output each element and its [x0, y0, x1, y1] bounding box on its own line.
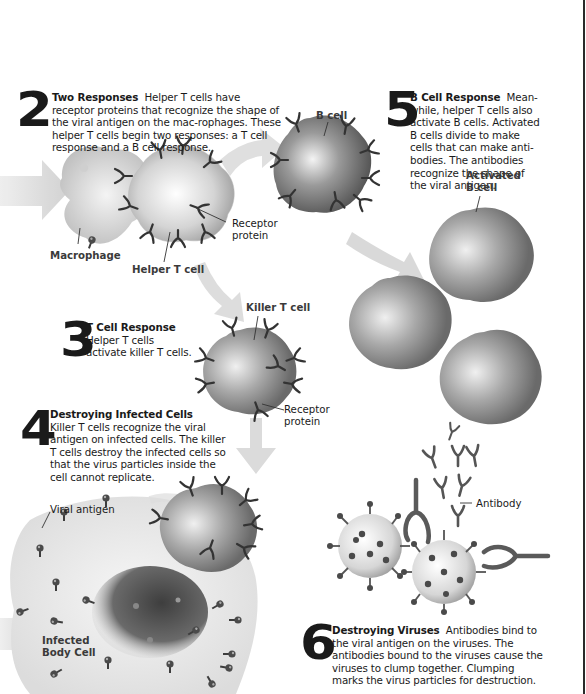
step-text: Killer T cells recognize the viral antig… [50, 421, 230, 484]
label-viral-antigen: Viral antigen [50, 504, 115, 516]
free-antibodies [423, 423, 482, 526]
b-cell [271, 113, 379, 213]
step-title: T Cell Response [86, 321, 196, 334]
label-b-cell: B cell [316, 110, 347, 122]
step-title: B Cell Response [410, 91, 500, 103]
label-activated-b-cell: Activated B cell [466, 170, 526, 194]
label-killer-t-cell: Killer T cell [246, 302, 310, 314]
step-text: Helper T cells activate killer T cells. [86, 334, 196, 359]
step-title: Destroying Infected Cells [50, 408, 230, 421]
plasma-cell-left [349, 275, 452, 369]
label-macrophage: Macrophage [50, 250, 121, 262]
step-title: Two Responses [52, 91, 138, 103]
label-receptor-protein-2: Receptor protein [284, 404, 344, 428]
label-helper-t-cell: Helper T cell [132, 264, 204, 276]
virus-left [327, 501, 410, 591]
plasma-cell-right [440, 330, 542, 425]
virus-right [401, 530, 486, 615]
label-antibody: Antibody [476, 498, 521, 510]
step-number: 2 [16, 87, 53, 131]
label-infected-body-cell: Infected Body Cell [42, 635, 102, 659]
step-title: Destroying Viruses [332, 624, 440, 636]
label-receptor-protein-1: Receptor protein [232, 218, 292, 242]
activated-b-cell [429, 207, 534, 302]
